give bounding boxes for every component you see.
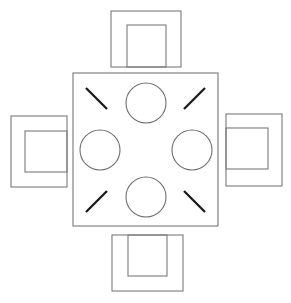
chair-east-seat (226, 128, 268, 169)
chair-east-outer-frame (226, 114, 282, 186)
chair-south-outer-frame (112, 235, 183, 291)
chair-west (11, 116, 67, 187)
chair-north-seat (127, 25, 166, 67)
chair-west-outer-frame (11, 116, 67, 187)
chair-north-outer-frame (111, 11, 181, 67)
diagram-canvas (0, 0, 291, 303)
chair-east (226, 114, 282, 186)
chair-south-seat (128, 235, 167, 276)
chair-south (112, 235, 183, 291)
chair-north (111, 11, 181, 67)
chair-west-seat (25, 131, 67, 172)
table-setting-diagram (0, 0, 291, 303)
